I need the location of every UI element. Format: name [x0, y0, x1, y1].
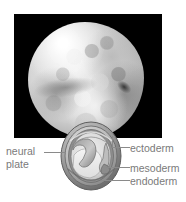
embryo-figure: neural plate ectoderm mesoderm endoderm [0, 0, 186, 202]
label-neural-plate: neural plate [6, 145, 35, 171]
leader-line-endoderm [101, 180, 130, 181]
label-neural-plate-line2: plate [6, 158, 35, 171]
embryo-photograph [14, 14, 162, 138]
leader-line-mesoderm [106, 167, 130, 168]
label-endoderm: endoderm [130, 175, 177, 188]
label-ectoderm: ectoderm [130, 142, 174, 155]
leader-line-ectoderm [112, 147, 130, 148]
label-mesoderm: mesoderm [130, 162, 180, 175]
leader-line-neural-plate [44, 152, 66, 153]
label-neural-plate-line1: neural [6, 145, 35, 158]
leader-line-ectoderm-vertical [112, 136, 113, 148]
